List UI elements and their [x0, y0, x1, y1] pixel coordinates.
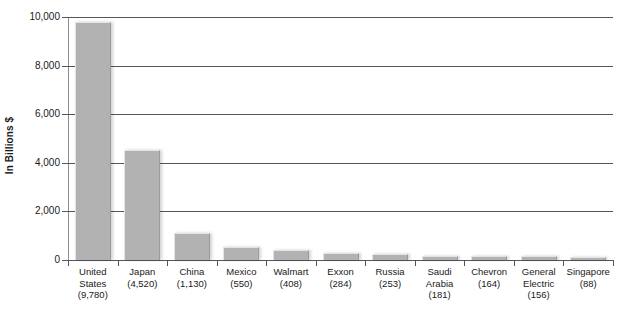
category-label: Walmart(408) [265, 266, 317, 289]
y-axis-tick-label: 4,000 [0, 158, 60, 168]
category-name-line: Walmart [265, 266, 317, 278]
category-name-line: Arabia [414, 278, 466, 290]
gridline [68, 66, 613, 67]
gridline [68, 260, 613, 261]
category-label: Singapore(88) [562, 266, 614, 289]
category-value-label: (284) [315, 278, 367, 290]
bar[interactable] [323, 253, 359, 260]
category-label: SaudiArabia(181) [414, 266, 466, 301]
bar[interactable] [124, 150, 160, 260]
category-name-line: United [67, 266, 119, 278]
plot-inner [68, 17, 613, 260]
y-axis-tick-label: 6,000 [0, 109, 60, 119]
category-name-line: Russia [364, 266, 416, 278]
category-value-label: (4,520) [116, 278, 168, 290]
category-name-line: Mexico [215, 266, 267, 278]
plot-area [68, 17, 613, 260]
category-name-line: China [166, 266, 218, 278]
category-value-label: (164) [463, 278, 515, 290]
y-axis-tick-label: 10,000 [0, 12, 60, 22]
bar[interactable] [422, 256, 458, 260]
category-label: Mexico(550) [215, 266, 267, 289]
bar[interactable] [223, 247, 259, 260]
category-name-line: Japan [116, 266, 168, 278]
bar[interactable] [273, 250, 309, 260]
y-axis-tick-labels: 10,0008,0006,0004,0002,0000 [0, 0, 62, 329]
category-label: GeneralElectric(156) [513, 266, 565, 301]
gridline [68, 17, 613, 18]
category-value-label: (550) [215, 278, 267, 290]
category-name-line: Electric [513, 278, 565, 290]
category-label: Japan(4,520) [116, 266, 168, 289]
bar[interactable] [174, 233, 210, 260]
gridline [68, 114, 613, 115]
category-name-line: Chevron [463, 266, 515, 278]
bar[interactable] [570, 257, 606, 260]
bar[interactable] [372, 254, 408, 260]
category-name-line: General [513, 266, 565, 278]
category-value-label: (253) [364, 278, 416, 290]
category-label: Russia(253) [364, 266, 416, 289]
y-axis-tick-label: 2,000 [0, 206, 60, 216]
category-value-label: (88) [562, 278, 614, 290]
category-label: UnitedStates(9,780) [67, 266, 119, 301]
bar[interactable] [521, 256, 557, 260]
category-value-label: (9,780) [67, 289, 119, 301]
category-value-label: (156) [513, 289, 565, 301]
category-label: Exxon(284) [315, 266, 367, 289]
category-name-line: Exxon [315, 266, 367, 278]
category-label: Chevron(164) [463, 266, 515, 289]
bar-chart: In Billions $ 10,0008,0006,0004,0002,000… [0, 0, 632, 329]
x-axis-category-labels: UnitedStates(9,780)Japan(4,520)China(1,1… [68, 266, 613, 326]
category-name-line: Singapore [562, 266, 614, 278]
y-axis-tick-label: 0 [0, 255, 60, 265]
category-value-label: (181) [414, 289, 466, 301]
category-name-line: States [67, 278, 119, 290]
bar[interactable] [75, 22, 111, 260]
category-label: China(1,130) [166, 266, 218, 289]
category-value-label: (408) [265, 278, 317, 290]
category-value-label: (1,130) [166, 278, 218, 290]
category-name-line: Saudi [414, 266, 466, 278]
bar[interactable] [471, 256, 507, 260]
y-axis-tick-label: 8,000 [0, 61, 60, 71]
